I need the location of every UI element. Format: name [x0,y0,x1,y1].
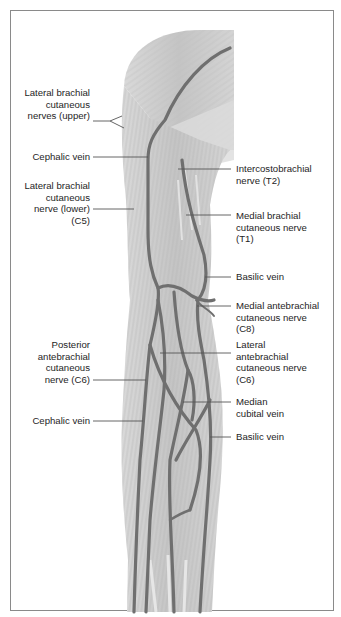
label-intercostobrachial-nerve: Intercostobrachial nerve (T2) [236,163,312,186]
label-medial-antebrachial-cutaneous: Medial antebrachial cutaneous nerve (C8) [236,300,319,335]
label-basilic-vein-lower: Basilic vein [236,431,284,443]
label-cephalic-vein-lower: Cephalic vein [32,415,90,427]
label-lateral-antebrachial-cutaneous: Lateral antebrachial cutaneous nerve (C6… [236,339,307,385]
label-basilic-vein-upper: Basilic vein [236,271,284,283]
label-cephalic-vein-upper: Cephalic vein [32,151,90,163]
label-medial-brachial-cutaneous: Medial brachial cutaneous nerve (T1) [236,210,307,245]
label-lateral-brachial-cutaneous-upper: Lateral brachial cutaneous nerves (upper… [24,87,90,122]
label-posterior-antebrachial-cutaneous: Posterior antebrachial cutaneous nerve (… [38,339,90,385]
label-median-cubital-vein: Median cubital vein [236,396,284,419]
label-lateral-brachial-cutaneous-lower: Lateral brachial cutaneous nerve (lower)… [24,180,90,226]
